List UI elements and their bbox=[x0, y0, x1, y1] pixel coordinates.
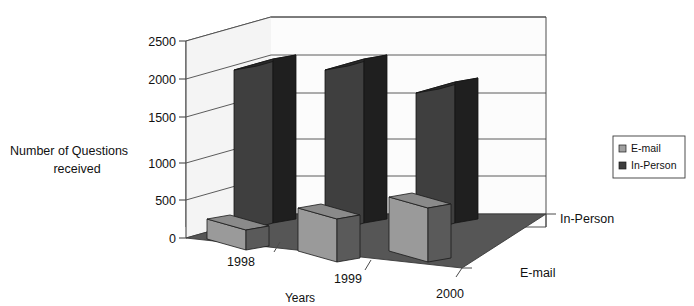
chart-3d-bar: 2500 2000 1500 1000 500 0 bbox=[0, 0, 694, 306]
y-tick-label-1000: 1000 bbox=[148, 157, 176, 171]
y-axis-title-line1: Number of Questions bbox=[10, 144, 128, 158]
legend-swatch-email bbox=[619, 145, 626, 152]
bar-in-person-1998 bbox=[234, 55, 296, 234]
depth-axis-label-in-person: In-Person bbox=[560, 212, 614, 226]
x-tick-label-2000: 2000 bbox=[436, 287, 464, 301]
y-axis bbox=[179, 41, 186, 238]
chart-canvas: 2500 2000 1500 1000 500 0 bbox=[0, 0, 694, 306]
legend-label-email: E-mail bbox=[631, 142, 661, 154]
bar-in-person-1999 bbox=[325, 55, 387, 234]
y-tick-label-2500: 2500 bbox=[148, 35, 176, 49]
x-axis-title: Years bbox=[285, 291, 315, 305]
y-tick-label-500: 500 bbox=[155, 194, 176, 208]
bar-email-1999 bbox=[298, 204, 360, 262]
legend-label-in-person: In-Person bbox=[631, 159, 677, 171]
x-tick-label-1999: 1999 bbox=[334, 272, 362, 286]
y-tick-label-0: 0 bbox=[169, 232, 176, 246]
bar-email-2000 bbox=[389, 193, 451, 262]
y-axis-title-line2: received bbox=[53, 162, 100, 176]
legend: E-mail In-Person bbox=[613, 136, 685, 178]
y-tick-label-2000: 2000 bbox=[148, 73, 176, 87]
legend-swatch-in-person bbox=[619, 162, 626, 169]
x-tick-label-1998: 1998 bbox=[227, 255, 255, 269]
depth-axis-label-email: E-mail bbox=[520, 266, 555, 280]
y-tick-label-1500: 1500 bbox=[148, 111, 176, 125]
